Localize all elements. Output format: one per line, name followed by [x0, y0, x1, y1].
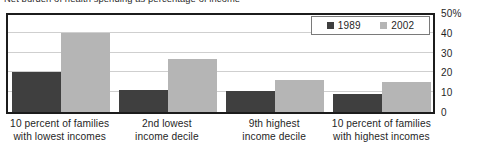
bar-2002-group-1 [61, 33, 110, 112]
chart-title: Net burden of health spending as percent… [4, 0, 424, 6]
x-axis-label-2: 2nd lowestincome decile [113, 117, 220, 151]
bar-1989-group-2 [119, 90, 168, 112]
x-axis-label-3-line-1: 9th highest [249, 118, 300, 129]
y-tick-label-20: 20 [441, 68, 453, 78]
y-tick-label-30: 30 [441, 49, 453, 59]
x-axis-label-4-line-1: 10 percent of families [332, 118, 431, 129]
x-axis-label-2-line-2: income decile [113, 130, 220, 143]
bar-1989-group-1 [12, 72, 61, 112]
chart-figure: Net burden of health spending as percent… [0, 0, 498, 154]
bar-1989-group-3 [226, 91, 275, 112]
legend-label-2002: 2002 [391, 21, 414, 31]
x-axis-label-3: 9th highestincome decile [221, 117, 328, 151]
x-axis-label-4-line-2: with highest incomes [328, 130, 435, 143]
y-tick-label-10: 10 [441, 88, 453, 98]
y-tick-label-50: 50% [441, 9, 462, 19]
legend-swatch-1989-icon [327, 22, 334, 29]
x-axis-label-2-line-1: 2nd lowest [142, 118, 192, 129]
x-axis-labels: 10 percent of familieswith lowest income… [6, 117, 435, 151]
x-axis-label-4: 10 percent of familieswith highest incom… [328, 117, 435, 151]
legend-label-1989: 1989 [338, 21, 361, 31]
chart-legend: 1989 2002 [311, 16, 430, 35]
legend-item-2002[interactable]: 2002 [380, 21, 414, 31]
x-axis-label-1-line-1: 10 percent of families [10, 118, 109, 129]
bar-2002-group-3 [275, 80, 324, 112]
bar-1989-group-4 [333, 94, 382, 112]
x-axis-label-1: 10 percent of familieswith lowest income… [6, 117, 113, 151]
bar-2002-group-2 [168, 59, 217, 112]
y-tick-label-0: 0 [441, 108, 447, 118]
legend-swatch-2002-icon [380, 22, 387, 29]
x-axis-label-1-line-2: with lowest incomes [6, 130, 113, 143]
y-tick-label-40: 40 [441, 29, 453, 39]
x-axis-label-3-line-2: income decile [221, 130, 328, 143]
legend-item-1989[interactable]: 1989 [327, 21, 361, 31]
bar-2002-group-4 [382, 82, 431, 112]
